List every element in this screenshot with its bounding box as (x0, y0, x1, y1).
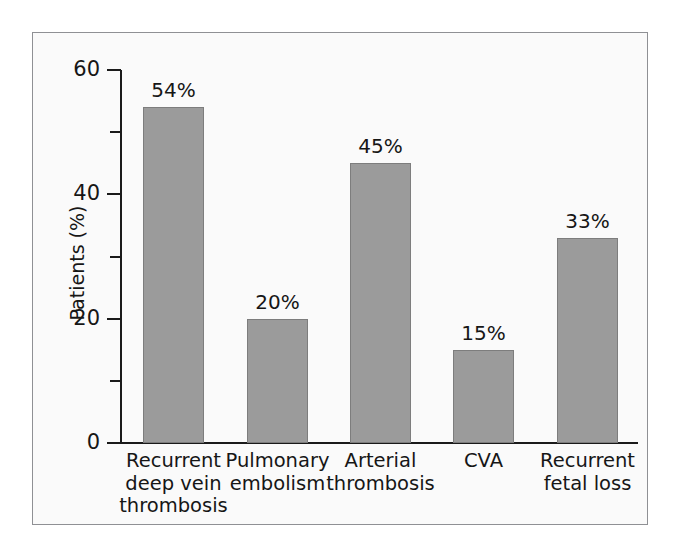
x-label-line: Pulmonary (222, 450, 333, 473)
x-label-line: deep vein (118, 473, 229, 496)
bar-value-recurrent-fetal-loss: 33% (557, 211, 618, 231)
y-tick-major-0 (107, 442, 121, 444)
x-label-line: Recurrent (118, 450, 229, 473)
x-label-line: Arterial (325, 450, 436, 473)
bar-arterial-thrombosis[interactable] (350, 163, 411, 443)
x-label-cva: CVA (428, 450, 539, 473)
x-label-arterial-thrombosis: Arterial thrombosis (325, 450, 436, 495)
y-tick-major-40 (107, 193, 121, 195)
y-tick-label-20: 20 (40, 308, 100, 329)
x-label-pulmonary-embolism: Pulmonary embolism (222, 450, 333, 495)
y-tick-minor-30 (110, 256, 121, 258)
bar-pulmonary-embolism[interactable] (247, 319, 308, 443)
bar-recurrent-fetal-loss[interactable] (557, 238, 618, 443)
x-label-line: fetal loss (532, 473, 643, 496)
x-label-line: thrombosis (325, 473, 436, 496)
y-tick-major-20 (107, 318, 121, 320)
y-tick-minor-10 (110, 380, 121, 382)
bar-value-arterial-thrombosis: 45% (350, 136, 411, 156)
bar-chart: Patients (%) 60 40 20 0 54% 20% 45% 15% … (0, 0, 684, 557)
y-tick-major-60 (107, 69, 121, 71)
bar-recurrent-deep-vein-thrombosis[interactable] (143, 107, 204, 443)
bar-value-pulmonary-embolism: 20% (247, 292, 308, 312)
y-tick-label-40: 40 (40, 183, 100, 204)
y-tick-minor-50 (110, 131, 121, 133)
x-label-recurrent-fetal-loss: Recurrent fetal loss (532, 450, 643, 495)
x-label-line: CVA (428, 450, 539, 473)
x-label-recurrent-deep-vein-thrombosis: Recurrent deep vein thrombosis (118, 450, 229, 518)
bar-value-recurrent-deep-vein-thrombosis: 54% (143, 80, 204, 100)
y-tick-label-60: 60 (40, 59, 100, 80)
bar-cva[interactable] (453, 350, 514, 443)
x-label-line: thrombosis (118, 495, 229, 518)
y-tick-label-0: 0 (40, 432, 100, 453)
x-label-line: Recurrent (532, 450, 643, 473)
bar-value-cva: 15% (453, 323, 514, 343)
x-label-line: embolism (222, 473, 333, 496)
